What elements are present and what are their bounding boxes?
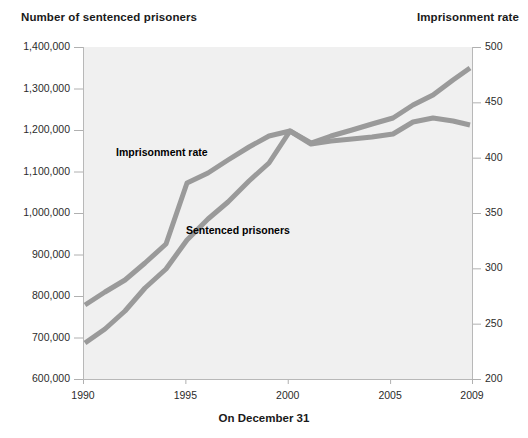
- x-tick-label: 2009: [442, 389, 502, 401]
- x-tick-label: 1990: [53, 389, 113, 401]
- right-tick-label: 300: [485, 261, 503, 273]
- left-tick-label: 1,000,000: [0, 206, 70, 218]
- left-tick-label: 1,200,000: [0, 123, 70, 135]
- right-tick-label: 350: [485, 206, 503, 218]
- left-axis-title: Number of sentenced prisoners: [21, 11, 197, 23]
- left-tick-label: 900,000: [0, 248, 70, 260]
- x-tick-label: 2000: [258, 389, 318, 401]
- left-tick-label: 1,400,000: [0, 40, 70, 52]
- right-axis-title: Imprisonment rate: [417, 11, 519, 23]
- x-tick-label: 1995: [155, 389, 215, 401]
- plot-canvas: [0, 0, 528, 438]
- right-tick-label: 500: [485, 40, 503, 52]
- x-tick-label: 2005: [360, 389, 420, 401]
- left-tick-label: 1,100,000: [0, 165, 70, 177]
- left-tick-label: 800,000: [0, 289, 70, 301]
- left-tick-label: 700,000: [0, 331, 70, 343]
- left-tick-label: 1,300,000: [0, 82, 70, 94]
- series-annotation-sentenced-prisoners: Sentenced prisoners: [186, 224, 290, 236]
- plot-background: [83, 47, 472, 379]
- imprisonment-chart: Number of sentenced prisoners Imprisonme…: [0, 0, 528, 438]
- x-axis-title: On December 31: [0, 412, 528, 424]
- right-tick-label: 200: [485, 372, 503, 384]
- left-tick-label: 600,000: [0, 372, 70, 384]
- right-tick-label: 400: [485, 151, 503, 163]
- right-tick-label: 250: [485, 317, 503, 329]
- right-tick-label: 450: [485, 95, 503, 107]
- series-annotation-imprisonment-rate: Imprisonment rate: [116, 146, 208, 158]
